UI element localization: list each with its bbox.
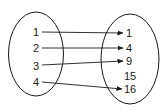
domain-label-4: 4 bbox=[33, 77, 39, 88]
range-label-16: 16 bbox=[124, 84, 136, 95]
mapping-diagram bbox=[0, 0, 168, 111]
range-label-4: 4 bbox=[126, 43, 132, 54]
domain-label-3: 3 bbox=[33, 61, 39, 72]
range-label-15: 15 bbox=[124, 71, 136, 82]
range-label-9: 9 bbox=[126, 56, 132, 67]
range-label-1: 1 bbox=[126, 28, 132, 39]
arrow-1-to-1 bbox=[42, 32, 123, 33]
domain-label-1: 1 bbox=[33, 27, 39, 38]
arrow-3-to-9 bbox=[42, 61, 123, 65]
domain-label-2: 2 bbox=[33, 43, 39, 54]
